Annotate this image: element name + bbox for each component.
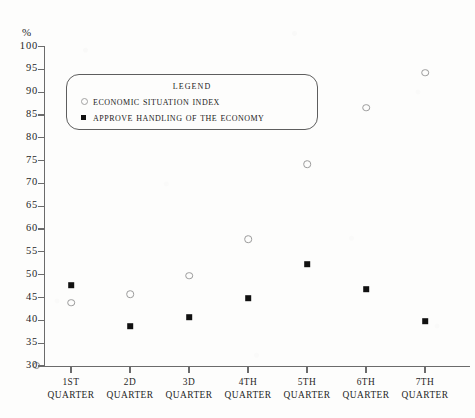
data-point-marker xyxy=(68,282,74,288)
data-point-marker xyxy=(127,323,133,329)
y-axis-tick xyxy=(38,160,44,161)
legend-label-series-1: Approve Handling of the Economy xyxy=(93,111,264,123)
y-axis-tick-label: 85 xyxy=(2,108,38,119)
y-axis-unit-label: % xyxy=(22,26,31,38)
y-axis-tick xyxy=(38,114,44,115)
x-axis-tick xyxy=(306,366,307,373)
data-point-marker xyxy=(422,318,428,324)
legend-title: Legend xyxy=(67,79,317,91)
x-axis-tick-label-line1: 1st xyxy=(62,377,79,387)
x-axis-tick-label-line2: Quarter xyxy=(386,389,464,402)
x-axis-tick xyxy=(365,366,366,373)
y-axis-tick-label: 100 xyxy=(2,40,38,51)
y-axis-tick xyxy=(38,274,44,275)
filled-square-marker-icon xyxy=(81,115,93,120)
data-point-marker xyxy=(363,287,369,293)
data-point-marker xyxy=(185,272,193,280)
data-point-marker xyxy=(303,160,311,168)
y-axis-tick-label: 95 xyxy=(2,62,38,73)
x-axis-tick-label: 7thQuarter xyxy=(386,376,464,402)
y-axis-tick xyxy=(38,365,44,366)
y-axis-tick-label: 90 xyxy=(2,85,38,96)
y-axis-tick xyxy=(38,137,44,138)
x-axis-tick-label-line1: 4th xyxy=(239,377,258,387)
x-axis-line xyxy=(44,366,470,367)
legend-label-series-0: Economic Situation Index xyxy=(93,95,220,107)
y-axis-line xyxy=(44,46,45,367)
y-axis-tick-label: 65 xyxy=(2,199,38,210)
x-axis-tick xyxy=(70,366,71,373)
x-axis-tick-label-line1: 3d xyxy=(183,377,195,387)
y-axis-tick-label: 75 xyxy=(2,154,38,165)
y-axis-tick-label: 80 xyxy=(2,131,38,142)
data-point-marker xyxy=(362,104,370,112)
data-point-marker xyxy=(245,296,251,302)
y-axis-tick-label: 35 xyxy=(2,336,38,347)
y-axis-tick xyxy=(38,92,44,93)
x-axis-tick xyxy=(188,366,189,373)
y-axis-tick-label: 70 xyxy=(2,176,38,187)
legend-item-approve-handling-economy: Approve Handling of the Economy xyxy=(67,109,317,125)
y-axis-tick xyxy=(38,69,44,70)
x-axis-tick xyxy=(129,366,130,373)
x-axis-tick-label-line1: 7th xyxy=(416,377,435,387)
data-point-marker xyxy=(304,261,310,267)
y-axis-tick xyxy=(38,183,44,184)
chart-page: % 1009590858075706560555045403530 1stQua… xyxy=(0,0,475,418)
y-axis-tick xyxy=(38,297,44,298)
y-axis-tick-label: 30 xyxy=(2,359,38,370)
legend-item-economic-situation-index: Economic Situation Index xyxy=(67,93,317,109)
y-axis-tick xyxy=(38,251,44,252)
y-axis-tick-label: 40 xyxy=(2,313,38,324)
data-point-marker xyxy=(67,299,75,307)
x-axis-tick-label-line1: 5th xyxy=(298,377,317,387)
open-circle-marker-icon xyxy=(81,98,93,105)
legend-box: Legend Economic Situation Index Approve … xyxy=(66,74,318,130)
y-axis-tick-label: 55 xyxy=(2,245,38,256)
x-axis-tick-label-line1: 2d xyxy=(124,377,136,387)
x-axis-tick-label-line1: 6th xyxy=(357,377,376,387)
y-axis-tick xyxy=(38,46,44,47)
y-axis-tick xyxy=(38,206,44,207)
y-axis-tick-label: 60 xyxy=(2,222,38,233)
y-axis-tick-label: 50 xyxy=(2,268,38,279)
y-axis-tick-label: 45 xyxy=(2,291,38,302)
x-axis-tick xyxy=(424,366,425,373)
data-point-marker xyxy=(244,235,252,243)
y-axis-tick xyxy=(38,228,44,229)
y-axis-tick xyxy=(38,343,44,344)
scatter-plot-area: % 1009590858075706560555045403530 1stQua… xyxy=(0,0,475,418)
data-point-marker xyxy=(186,314,192,320)
data-point-marker xyxy=(421,69,429,77)
data-point-marker xyxy=(126,291,134,299)
y-axis-tick xyxy=(38,320,44,321)
x-axis-tick xyxy=(247,366,248,373)
